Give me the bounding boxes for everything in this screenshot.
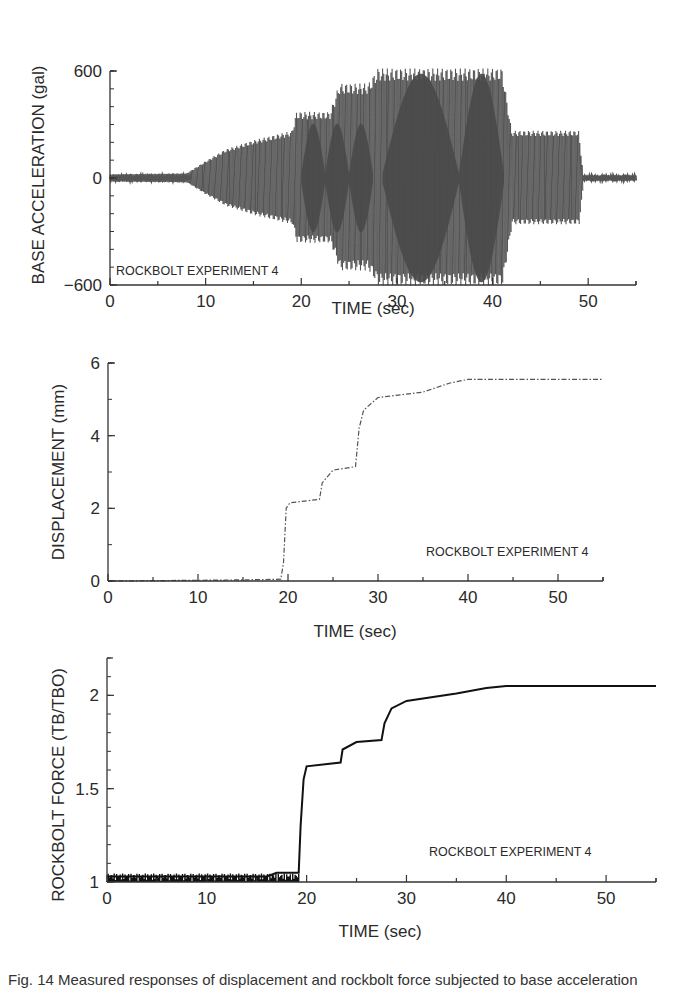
y-tick-label: 6 — [91, 354, 100, 373]
y-tick-label: 600 — [74, 62, 102, 81]
x-tick-label: 10 — [197, 889, 216, 908]
x-tick-label: 20 — [292, 292, 311, 311]
displacement-axes: 010203040500246 — [91, 354, 603, 607]
y-axis-title: ROCKBOLT FORCE (TB/TBO) — [49, 668, 68, 902]
displacement-chart: 010203040500246 ROCKBOLT EXPERIMENT 4 TI… — [49, 354, 603, 641]
force-axes: 0102030405011.52 — [75, 658, 656, 908]
x-tick-label: 0 — [103, 588, 112, 607]
x-tick-label: 20 — [279, 588, 298, 607]
y-tick-label: 1 — [90, 873, 99, 892]
rockbolt-force-chart: 0102030405011.52 ROCKBOLT EXPERIMENT 4 T… — [49, 658, 656, 941]
x-tick-label: 0 — [102, 889, 111, 908]
x-tick-label: 40 — [497, 889, 516, 908]
x-tick-label: 0 — [105, 292, 114, 311]
y-tick-label: 0 — [91, 572, 100, 591]
x-axis-title: TIME (sec) — [313, 622, 396, 641]
experiment-annotation: ROCKBOLT EXPERIMENT 4 — [429, 845, 592, 859]
acceleration-trace — [110, 68, 637, 285]
y-tick-label: 0 — [93, 169, 102, 188]
x-axis-title: TIME (sec) — [331, 299, 414, 318]
y-tick-label: 2 — [91, 499, 100, 518]
x-tick-label: 50 — [579, 292, 598, 311]
y-axis-title: DISPLACEMENT (mm) — [49, 384, 68, 560]
x-tick-label: 20 — [297, 889, 316, 908]
y-tick-label: 1.5 — [75, 780, 99, 799]
x-axis-title: TIME (sec) — [338, 922, 421, 941]
y-axis-title: BASE ACCELERATION (gal) — [29, 66, 48, 285]
x-tick-label: 40 — [483, 292, 502, 311]
x-tick-label: 50 — [549, 588, 568, 607]
x-tick-label: 40 — [459, 588, 478, 607]
y-tick-label: −600 — [64, 276, 102, 295]
y-tick-label: 4 — [91, 427, 100, 446]
figure-caption: Fig. 14 Measured responses of displaceme… — [8, 972, 638, 987]
x-tick-label: 10 — [189, 588, 208, 607]
y-tick-label: 2 — [90, 686, 99, 705]
experiment-annotation: ROCKBOLT EXPERIMENT 4 — [426, 545, 589, 559]
x-tick-label: 30 — [369, 588, 388, 607]
experiment-annotation: ROCKBOLT EXPERIMENT 4 — [116, 264, 279, 278]
x-tick-label: 30 — [397, 889, 416, 908]
base-acceleration-chart: 01020304050−6000600 ROCKBOLT EXPERIMENT … — [29, 62, 637, 318]
x-tick-label: 10 — [196, 292, 215, 311]
x-tick-label: 50 — [597, 889, 616, 908]
